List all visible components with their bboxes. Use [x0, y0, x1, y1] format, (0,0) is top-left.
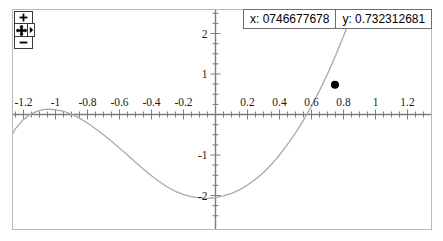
navigation-widget[interactable]	[14, 11, 35, 48]
chevron-right-icon	[29, 26, 34, 34]
y-tick-label: 2	[202, 28, 208, 40]
move-arrows-icon	[16, 25, 27, 36]
plot-canvas[interactable]: -1.2-1-0.8-0.6-0.4-0.20.20.40.60.811.221…	[0, 0, 443, 241]
points-layer	[331, 81, 339, 89]
readout-x-value: x: 0746677678	[244, 10, 335, 28]
plus-icon	[19, 13, 28, 22]
y-tick-label: 1	[202, 68, 208, 80]
x-tick-label: 1	[373, 96, 379, 108]
x-tick-label: 0.8	[336, 96, 351, 108]
x-tick-label: -0.2	[174, 96, 192, 108]
x-tick-label: -0.4	[142, 96, 160, 108]
x-tick-label: 0.6	[304, 96, 319, 108]
pan-row	[14, 23, 35, 37]
x-tick-label: 0.2	[240, 96, 255, 108]
x-tick-label: -1	[51, 96, 61, 108]
expand-panel-button[interactable]	[28, 23, 35, 37]
pan-button[interactable]	[14, 23, 28, 37]
minus-icon	[19, 38, 28, 47]
graph-app: -1.2-1-0.8-0.6-0.4-0.20.20.40.60.811.221…	[0, 0, 443, 241]
cursor-point[interactable]	[331, 81, 339, 89]
x-tick-label: -0.6	[110, 96, 128, 108]
coordinate-readout: x: 0746677678 y: 0.732312681	[243, 9, 432, 29]
x-tick-label: 1.2	[400, 96, 415, 108]
y-tick-label: -1	[198, 149, 208, 161]
zoom-in-button[interactable]	[14, 11, 33, 24]
zoom-out-button[interactable]	[14, 36, 33, 49]
y-tick-label: -2	[198, 190, 208, 202]
readout-y-value: y: 0.732312681	[335, 10, 431, 28]
x-tick-label: 0.4	[272, 96, 287, 108]
x-tick-label: -0.8	[78, 96, 96, 108]
x-tick-label: -1.2	[14, 96, 32, 108]
